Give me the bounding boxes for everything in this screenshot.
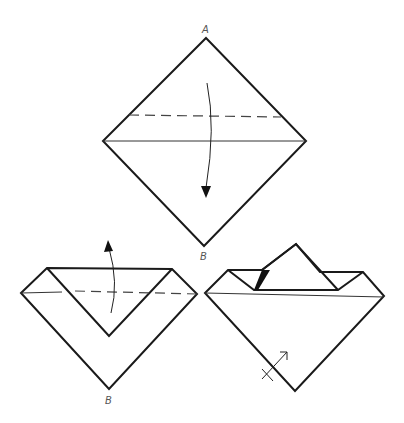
turn-over-arrow-shaft	[262, 352, 287, 379]
fold-up-arrowhead-icon	[104, 240, 113, 252]
step-1-figure: A B	[103, 24, 306, 262]
fold-up-arrow-shaft	[109, 248, 115, 313]
label-a: A	[201, 24, 209, 35]
origami-diagram: A B B	[0, 0, 404, 423]
valley-fold-line	[129, 115, 281, 117]
folded-outline	[21, 268, 197, 389]
step-3-figure	[205, 244, 384, 391]
black-wedge	[254, 270, 270, 290]
crease-left	[21, 292, 62, 293]
valley-fold-line-2	[75, 291, 197, 294]
turn-over-cross-icon	[262, 369, 273, 381]
triangle-flap	[262, 244, 338, 290]
label-b-bottom: B	[105, 395, 112, 406]
fold-down-arrowhead-icon	[201, 186, 211, 198]
label-b-top: B	[200, 251, 207, 262]
inner-flap-v	[47, 268, 172, 336]
crease-line-3	[205, 293, 384, 297]
step-2-figure: B	[21, 240, 197, 406]
result-outline	[205, 244, 384, 391]
square-outline	[103, 38, 306, 246]
fold-down-arrow-shaft	[206, 83, 211, 188]
